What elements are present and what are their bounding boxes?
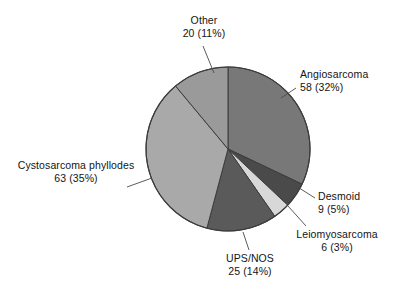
leader-line-ups-nos xyxy=(243,232,249,250)
slice-label-cystosarcoma-name: Cystosarcoma phyllodes xyxy=(4,159,148,172)
leader-line-desmoid xyxy=(296,186,315,198)
slice-label-desmoid-name: Desmoid xyxy=(318,190,394,203)
slice-label-angiosarcoma-value: 58 (32%) xyxy=(300,81,398,94)
slice-label-other: Other 20 (11%) xyxy=(152,14,256,39)
pie-slices xyxy=(146,67,310,231)
slice-label-ups-nos: UPS/NOS 25 (14%) xyxy=(208,252,292,277)
slice-label-cystosarcoma-value: 63 (35%) xyxy=(4,172,148,185)
slice-label-leiomyosarcoma-name: Leiomyosarcoma xyxy=(278,228,396,241)
slice-label-ups-nos-value: 25 (14%) xyxy=(208,265,292,278)
pie-chart-figure: Other 20 (11%) Angiosarcoma 58 (32%) Des… xyxy=(0,0,399,295)
slice-label-desmoid-value: 9 (5%) xyxy=(318,203,394,216)
slice-label-angiosarcoma: Angiosarcoma 58 (32%) xyxy=(300,68,398,93)
slice-label-leiomyosarcoma: Leiomyosarcoma 6 (3%) xyxy=(278,228,396,253)
slice-label-cystosarcoma-phyllodes: Cystosarcoma phyllodes 63 (35%) xyxy=(4,159,148,184)
slice-label-ups-nos-name: UPS/NOS xyxy=(208,252,292,265)
slice-label-angiosarcoma-name: Angiosarcoma xyxy=(300,68,398,81)
slice-label-other-value: 20 (11%) xyxy=(152,27,256,40)
slice-label-other-name: Other xyxy=(152,14,256,27)
slice-label-leiomyosarcoma-value: 6 (3%) xyxy=(278,241,396,254)
leader-line-leiomyosarcoma xyxy=(288,206,306,226)
slice-label-desmoid: Desmoid 9 (5%) xyxy=(318,190,394,215)
